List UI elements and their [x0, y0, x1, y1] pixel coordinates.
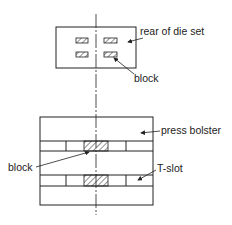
- bolster-block-1: [84, 141, 108, 151]
- label-t-slot: T-slot: [157, 162, 183, 174]
- arrow-block-bottom: [36, 152, 89, 167]
- block-top-left: [76, 38, 88, 43]
- label-press-bolster: press bolster: [161, 124, 222, 136]
- block-bottom-right: [104, 52, 117, 57]
- block-bottom-left: [76, 52, 88, 57]
- label-block-top: block: [134, 72, 159, 84]
- bolster-block-2: [84, 175, 108, 186]
- arrow-block-top: [114, 58, 134, 74]
- block-top-right: [104, 38, 117, 43]
- label-block-bottom: block: [8, 161, 33, 173]
- diagram-canvas: rear of die set block press bolster bloc…: [0, 0, 232, 225]
- arrow-press-bolster: [141, 131, 160, 133]
- label-rear-of-die-set: rear of die set: [140, 25, 204, 37]
